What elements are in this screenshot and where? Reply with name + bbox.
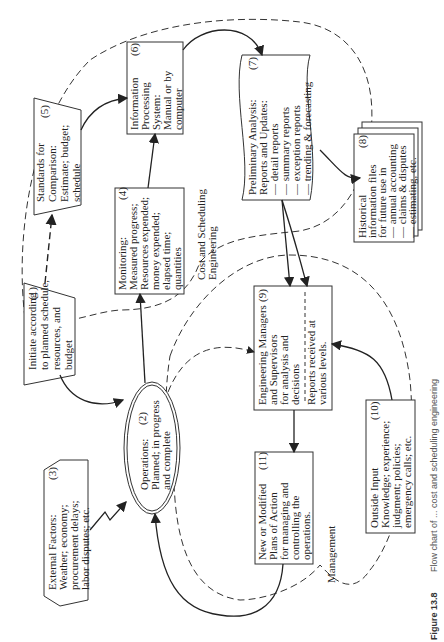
edge-4-to-6	[148, 134, 155, 188]
node-5-text-1: Comparison:	[46, 145, 58, 202]
node-4-text-5: quantities	[171, 247, 183, 290]
node-5-text-3: schedule	[70, 163, 82, 202]
node-2-text-2: and complete	[160, 431, 172, 490]
node-5-text-2: Estimate; budget;	[58, 125, 70, 202]
node-3-text-3: labor disputes; etc.	[79, 507, 91, 590]
node-4-number: (4)	[116, 187, 129, 200]
edge-6-to-7	[183, 30, 262, 55]
edge-2-to-9	[168, 347, 254, 392]
region-label-cost-scheduling-1: Engineering	[206, 226, 218, 280]
node-8-number: (8)	[356, 135, 369, 148]
flow-diagram: Initiate according to planned schedule, …	[0, 0, 444, 642]
node-8-text-5: — estimating, etc.	[406, 157, 418, 239]
edge-2-to-4	[140, 294, 145, 383]
node-1-text-0: Initiate according	[26, 292, 38, 370]
edge-1-to-2	[60, 375, 123, 404]
edge-5-to-6	[81, 98, 127, 130]
node-11-number: (11)	[256, 452, 269, 470]
edge-3-to-2	[90, 502, 126, 530]
node-10-number: (10)	[368, 401, 381, 420]
node-10-text-3: emergency calls; etc.	[401, 435, 413, 528]
node-7-text-5: — trending & forecasting	[301, 81, 313, 196]
edge-10-to-9	[332, 344, 392, 400]
node-2-number: (2)	[136, 412, 149, 425]
node-1-number: (1)	[26, 287, 39, 300]
node-1-text-1: to planned schedule,	[38, 280, 50, 370]
region-label-management: Management	[325, 526, 337, 583]
node-9-text-3: decisions	[289, 364, 301, 405]
node-3-number: (3)	[46, 467, 59, 480]
node-9-number: (9)	[256, 289, 269, 302]
node-1-text-2: resources, and	[50, 307, 62, 370]
node-6-text-4: computer	[172, 88, 184, 130]
figure-caption-text: Flow chart of ... cost and scheduling en…	[429, 379, 439, 572]
node-11-text-4: operations.	[300, 511, 312, 560]
node-1-text-3: budget	[62, 340, 74, 370]
node-6-number: (6)	[128, 43, 141, 56]
node-5-number: (5)	[38, 105, 51, 118]
node-9-lower-text-1: various levels.	[316, 341, 328, 405]
edge-1-to-5	[45, 215, 52, 283]
node-7-number: (7)	[246, 57, 259, 70]
node-5-text-0: Standards for	[34, 143, 46, 202]
figure-caption-prefix: Figure 13.8	[429, 592, 439, 640]
